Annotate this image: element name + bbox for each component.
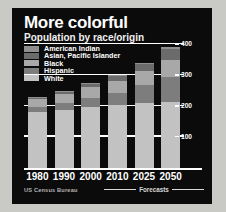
bar-stack	[135, 63, 154, 168]
bar-stack	[55, 91, 74, 168]
bar-segment	[28, 112, 47, 168]
x-axis-label: 1980	[24, 171, 51, 182]
y-axis-tick-text: 200	[181, 102, 192, 109]
bar-segment	[135, 85, 154, 103]
tick-mark-icon	[175, 105, 179, 106]
x-axis-line	[24, 168, 202, 170]
bar-segment	[55, 94, 74, 103]
bar-segment	[108, 81, 127, 93]
bar-stack	[28, 97, 47, 168]
y-axis-tick-label: 300	[175, 72, 192, 79]
y-axis-tick-text: 400	[181, 40, 192, 47]
bar-segment	[135, 71, 154, 85]
plot-area	[24, 38, 184, 168]
x-axis-label: 2025	[131, 171, 158, 182]
x-axis-label: 2000	[77, 171, 104, 182]
bar-stack	[81, 83, 100, 168]
y-axis-tick-label: 400	[175, 41, 192, 48]
bar-segment	[81, 98, 100, 108]
bar-segment	[135, 103, 154, 168]
source-credit: US Census Bureau	[24, 187, 78, 194]
bar-segment	[161, 77, 180, 102]
bar-segment	[55, 110, 74, 168]
bar-segment	[108, 93, 127, 106]
bar-segment	[81, 87, 100, 98]
page-title: More colorful	[24, 14, 128, 31]
bar-segment	[81, 107, 100, 168]
chart-panel: More colorful Population by race/origin …	[12, 8, 212, 204]
bar-segment	[55, 103, 74, 110]
forecast-bracket: Forecasts	[104, 185, 204, 194]
bar-stack	[108, 75, 127, 168]
tick-mark-icon	[175, 43, 179, 44]
y-axis-tick-text: 100	[181, 133, 192, 140]
y-axis-tick-label: 100	[175, 134, 192, 141]
bar-segment	[161, 49, 180, 61]
forecast-line-right	[172, 189, 204, 190]
forecast-line-left	[104, 189, 136, 190]
y-axis-tick-label: 200	[175, 103, 192, 110]
forecast-label: Forecasts	[136, 186, 172, 193]
x-axis-label: 2010	[104, 171, 131, 182]
bar-segment	[28, 99, 47, 107]
tick-mark-icon	[175, 74, 179, 75]
bar-segment	[135, 64, 154, 71]
y-axis-tick-text: 300	[181, 71, 192, 78]
bar-series-group	[24, 38, 184, 168]
x-axis-label: 2050	[157, 171, 184, 182]
chart-page: More colorful Population by race/origin …	[0, 0, 226, 212]
bar-segment	[108, 105, 127, 168]
x-axis-label: 1990	[51, 171, 78, 182]
tick-mark-icon	[175, 136, 179, 137]
